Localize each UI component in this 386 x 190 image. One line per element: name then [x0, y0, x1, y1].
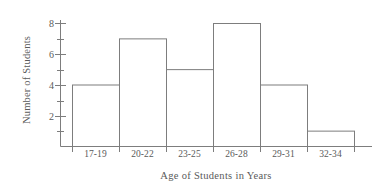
bar-23-25	[167, 70, 214, 147]
histogram-figure: Number of Students	[0, 0, 386, 190]
x-axis-title: Age of Students in Years	[60, 170, 372, 181]
bar-20-22	[120, 39, 167, 147]
x-tick-label-17-19: 17-19	[72, 149, 119, 160]
bar-26-28	[214, 24, 261, 147]
x-tick-label-23-25: 23-25	[166, 149, 213, 160]
x-tick-label-20-22: 20-22	[119, 149, 166, 160]
x-tick-label-29-31: 29-31	[260, 149, 307, 160]
plot-area: 8 6 4 2 17-19 20-22 23-25 26-28 29-31 32…	[0, 0, 386, 190]
chart-svg	[0, 0, 386, 190]
x-tick-label-32-34: 32-34	[307, 149, 354, 160]
y-tick-label-6: 6	[40, 50, 54, 60]
bar-29-31	[261, 85, 308, 147]
y-tick-label-8: 8	[40, 19, 54, 29]
bar-17-19	[73, 85, 120, 147]
bars-layer	[73, 24, 355, 147]
y-tick-label-2: 2	[40, 112, 54, 122]
y-tick-label-4: 4	[40, 81, 54, 91]
x-tick-label-26-28: 26-28	[213, 149, 260, 160]
bar-32-34	[308, 131, 355, 146]
